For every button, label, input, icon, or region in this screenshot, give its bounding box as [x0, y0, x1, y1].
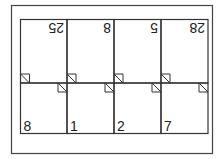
page-number: 28: [189, 20, 205, 36]
fold-corner-icon: [161, 74, 170, 83]
page-bottom-3: 2: [114, 83, 161, 134]
page-top-3: 5: [114, 20, 161, 84]
fold-corner-icon: [105, 83, 114, 92]
page-bottom-2: 1: [67, 83, 114, 134]
page-top-4: 28: [161, 20, 208, 84]
fold-corner-icon: [199, 83, 208, 92]
sheet-border: [12, 6, 213, 154]
page-number: 5: [150, 20, 158, 36]
page-bottom-4: 7: [161, 83, 208, 134]
page-number: 2: [117, 118, 125, 134]
page-top-1: 25: [21, 20, 68, 84]
page-number: 8: [103, 20, 111, 36]
fold-corner-icon: [114, 74, 123, 83]
fold-corner-icon: [67, 74, 76, 83]
page-number: 25: [48, 20, 64, 36]
page-number: 1: [70, 118, 78, 134]
fold-corner-icon: [21, 74, 30, 83]
page-number: 7: [164, 118, 172, 134]
imposition-diagram: 2585288127: [0, 0, 224, 159]
fold-corner-icon: [58, 83, 67, 92]
fold-corner-icon: [152, 83, 161, 92]
page-number: 8: [24, 118, 32, 134]
page-top-2: 8: [67, 20, 114, 84]
page-bottom-1: 8: [21, 83, 68, 134]
